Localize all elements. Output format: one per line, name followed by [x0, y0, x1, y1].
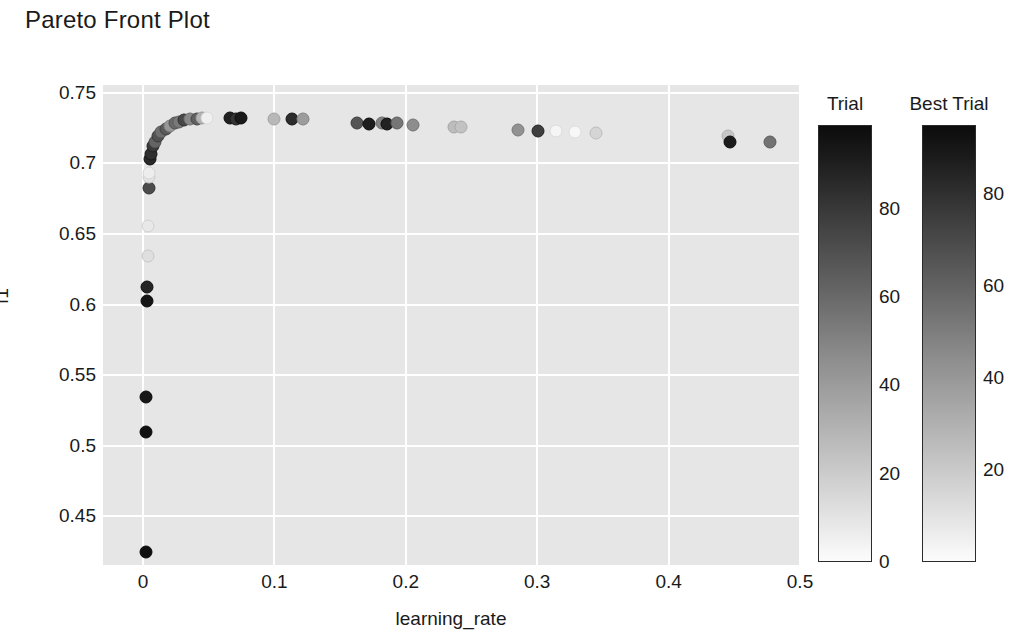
scatter-point: [550, 125, 563, 138]
scatter-point: [234, 112, 247, 125]
scatter-point: [296, 113, 309, 126]
y-tick-label: 0.75: [59, 82, 96, 104]
colorbar-trial: Trial 806040200: [818, 125, 872, 562]
scatter-point: [763, 135, 776, 148]
gridline-horizontal: [103, 515, 800, 517]
gridline-horizontal: [103, 374, 800, 376]
y-tick-label: 0.55: [59, 364, 96, 386]
colorbar-tick-label: 80: [879, 198, 900, 220]
scatter-point: [531, 124, 544, 137]
scatter-point: [723, 136, 736, 149]
x-tick-label: 0: [138, 571, 149, 593]
scatter-point: [590, 126, 603, 139]
colorbar-tick-label: 20: [983, 459, 1004, 481]
x-tick-label: 0.1: [261, 571, 287, 593]
scatter-point: [142, 220, 155, 233]
colorbar-tick-label: 0: [879, 551, 890, 573]
colorbar-tick-label: 20: [879, 463, 900, 485]
x-tick-label: 0.3: [524, 571, 550, 593]
x-axis-label: learning_rate: [396, 608, 507, 630]
colorbar-tick-label: 60: [983, 275, 1004, 297]
gridline-vertical: [273, 85, 275, 565]
colorbar-trial-gradient: [818, 125, 872, 562]
x-tick-label: 0.4: [655, 571, 681, 593]
gridline-horizontal: [103, 162, 800, 164]
scatter-point: [455, 121, 468, 134]
colorbar-tick-label: 80: [983, 183, 1004, 205]
y-tick-label: 0.65: [59, 223, 96, 245]
scatter-point: [140, 391, 153, 404]
gridline-horizontal: [103, 92, 800, 94]
scatter-point: [141, 280, 154, 293]
scatter-point: [139, 426, 152, 439]
x-tick-label: 0.2: [393, 571, 419, 593]
y-tick-label: 0.5: [70, 435, 96, 457]
y-tick-label: 0.45: [59, 505, 96, 527]
x-tick-label: 0.5: [787, 571, 813, 593]
gridline-vertical: [536, 85, 538, 565]
gridline-horizontal: [103, 445, 800, 447]
scatter-point: [141, 295, 154, 308]
y-axis-label: f1: [0, 288, 13, 304]
scatter-point: [141, 249, 154, 262]
gridline-vertical: [668, 85, 670, 565]
scatter-point: [568, 125, 581, 138]
scatter-point: [142, 182, 155, 195]
pareto-front-figure: Pareto Front Plot 0.750.70.650.60.550.50…: [0, 0, 1018, 643]
colorbar-best-trial: Best Trial 80604020: [922, 125, 976, 562]
scatter-plot-area: [103, 85, 800, 565]
colorbar-tick-label: 40: [983, 367, 1004, 389]
y-axis-ticks: 0.750.70.650.60.550.50.45: [0, 0, 96, 643]
colorbar-trial-label: Trial: [827, 93, 863, 115]
gridline-vertical: [405, 85, 407, 565]
gridline-horizontal: [103, 304, 800, 306]
scatter-point: [512, 123, 525, 136]
colorbar-best-trial-label: Best Trial: [909, 93, 988, 115]
scatter-point: [407, 118, 420, 131]
scatter-point: [391, 117, 404, 130]
scatter-point: [363, 117, 376, 130]
scatter-point: [139, 546, 152, 559]
scatter-point: [267, 113, 280, 126]
gridline-horizontal: [103, 233, 800, 235]
scatter-point: [143, 166, 156, 179]
colorbar-tick-label: 60: [879, 286, 900, 308]
y-tick-label: 0.6: [70, 294, 96, 316]
scatter-point: [201, 111, 214, 124]
gridline-vertical: [799, 85, 800, 565]
colorbar-tick-label: 40: [879, 374, 900, 396]
y-tick-label: 0.7: [70, 152, 96, 174]
colorbar-best-trial-gradient: [922, 125, 976, 562]
